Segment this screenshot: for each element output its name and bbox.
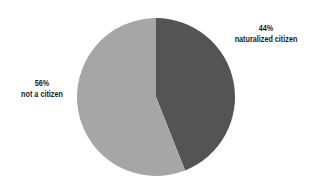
slice-percent: 44% — [234, 23, 299, 34]
slice-label-not-a-citizen: 56% not a citizen — [10, 78, 75, 100]
slice-name: not a citizen — [10, 89, 75, 100]
slice-percent: 56% — [10, 78, 75, 89]
slice-name: naturalized citizen — [234, 34, 299, 45]
slice-label-naturalized-citizen: 44% naturalized citizen — [234, 23, 299, 45]
